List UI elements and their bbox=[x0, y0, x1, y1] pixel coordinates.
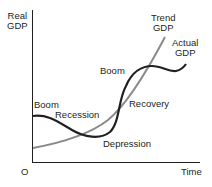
actual-gdp-label: Actual GDP bbox=[172, 38, 198, 58]
recovery-label: Recovery bbox=[129, 99, 169, 109]
trend-gdp-label: Trend GDP bbox=[151, 13, 175, 33]
y-axis-label-line2: GDP bbox=[7, 21, 28, 31]
boom-right-label: Boom bbox=[100, 66, 125, 76]
depression-label: Depression bbox=[103, 139, 151, 149]
x-axis-label: Time bbox=[181, 167, 202, 177]
actual-gdp-label-line2: GDP bbox=[172, 48, 198, 58]
recession-label: Recession bbox=[55, 110, 99, 120]
origin-label: O bbox=[21, 167, 28, 177]
trend-gdp-label-line2: GDP bbox=[151, 23, 175, 33]
y-axis-label: Real GDP bbox=[7, 11, 28, 31]
trend-gdp-line bbox=[33, 37, 165, 148]
business-cycle-chart bbox=[0, 0, 212, 187]
